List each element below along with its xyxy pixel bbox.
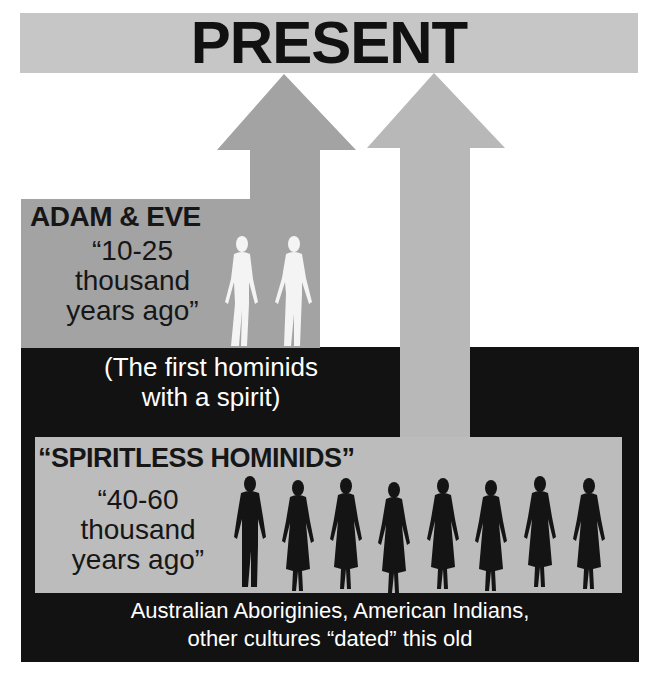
adam-eve-figures-icon xyxy=(220,234,320,350)
spiritless-date: “40-60 thousand years ago” xyxy=(48,485,228,575)
hominid-figures-icon xyxy=(230,475,620,595)
adam-eve-title: ADAM & EVE xyxy=(30,201,201,233)
adam-eve-date: “10-25 thousand years ago” xyxy=(40,236,225,326)
footer-caption: Australian Aboriginies, American Indians… xyxy=(21,597,639,653)
spiritless-title: “SPIRITLESS HOMINIDS” xyxy=(38,443,355,474)
spirit-note: (The first hominids with a spirit) xyxy=(21,352,401,412)
